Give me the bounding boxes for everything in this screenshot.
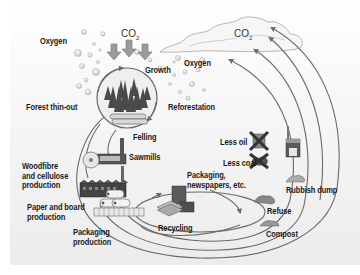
packaging-pallet-icon (94, 208, 144, 216)
label-co2-cloud: CO2 (234, 28, 252, 41)
label-less-coal: Less coal (223, 159, 256, 169)
label-felling: Felling (133, 133, 156, 143)
label-line: production (22, 181, 68, 191)
label-co2-top: CO2 (121, 28, 139, 41)
label-sawmills: Sawmills (129, 153, 160, 163)
recycling-boxes-icon (157, 186, 194, 216)
label-reforestation: Reforestation (168, 103, 215, 113)
label-line: newspapers, etc. (187, 181, 246, 191)
lifecycle-diagram: Oxygen CO2 CO2 Growth Oxygen Forest thin… (0, 0, 360, 275)
label-woodfibre: Woodfibre and cellulose production (22, 162, 68, 191)
co2-subscript: 2 (249, 35, 252, 41)
label-growth: Growth (145, 66, 171, 76)
label-less-oil: Less oil (220, 138, 247, 148)
label-oxygen-left: Oxygen (40, 37, 67, 47)
co2-text: CO (121, 28, 136, 39)
oil-barrel-crossed-icon (250, 132, 268, 150)
co2-down-arrows-icon (107, 40, 152, 60)
incinerator-icon (286, 126, 300, 157)
label-packaging-production: Packaging production (73, 228, 111, 247)
label-oxygen-right: Oxygen (184, 59, 211, 69)
label-rubbish-dump: Rubbish dump (286, 186, 337, 196)
label-paper-board: Paper and board production (27, 203, 85, 222)
logs-icon (110, 114, 148, 124)
label-forest-thin-out: Forest thin-out (26, 103, 77, 113)
label-refuse: Refuse (267, 207, 291, 217)
label-compost: Compost (266, 230, 298, 240)
emission-arrows (230, 28, 339, 200)
forest-circle-icon (97, 68, 157, 128)
label-line: production (27, 213, 85, 223)
co2-subscript: 2 (136, 35, 139, 41)
label-packaging-newspapers: Packaging, newspapers, etc. (187, 171, 246, 190)
rubbish-pile-icon (286, 175, 305, 182)
saw-blade-icon (83, 152, 99, 168)
compost-pile-icon (260, 221, 279, 226)
co2-text: CO (234, 28, 249, 39)
co2-cloud-icon (160, 17, 302, 52)
sawmill-icon (96, 138, 126, 164)
recycling-loop (135, 190, 265, 232)
label-line: production (73, 238, 111, 248)
label-recycling: Recycling (158, 224, 193, 234)
